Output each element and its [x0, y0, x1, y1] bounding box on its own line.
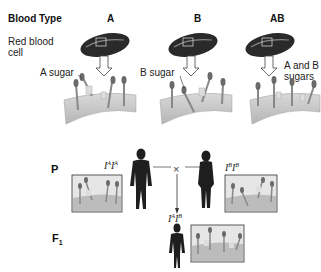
- mother-silhouette-icon: [198, 151, 214, 209]
- arrow-down-b-icon: [183, 56, 199, 76]
- membrane-ab-icon: [250, 76, 320, 124]
- child-membrane-box-icon: [191, 225, 244, 262]
- father-membrane-box-icon: [72, 175, 122, 212]
- mother-membrane-box-icon: [225, 175, 277, 212]
- descent-arrow-head-icon: [175, 208, 179, 214]
- membrane-b-icon: [160, 72, 232, 124]
- arrow-down-a-icon: [96, 56, 112, 76]
- blood-type-illustration: [0, 0, 321, 140]
- child-silhouette-icon: [169, 224, 185, 269]
- genetic-cross-illustration: [0, 140, 321, 272]
- father-silhouette-icon: [130, 149, 152, 210]
- membrane-a-icon: [64, 73, 136, 124]
- arrow-down-ab-icon: [261, 56, 277, 76]
